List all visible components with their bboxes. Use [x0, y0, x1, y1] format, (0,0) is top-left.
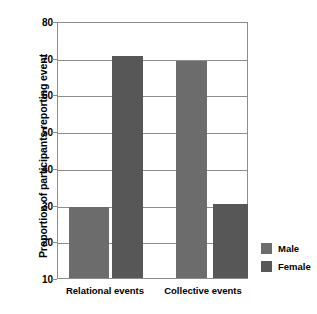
- x-tick-label-relational-events: Relational events: [66, 285, 144, 296]
- legend-swatch-male-icon: [261, 243, 272, 254]
- gridline-40: [58, 170, 247, 171]
- legend-item-male[interactable]: Male: [261, 243, 311, 254]
- gridline-60: [58, 96, 247, 97]
- chart-legend: Male Female: [261, 243, 311, 279]
- legend-label-male: Male: [278, 243, 299, 254]
- bar-chart-figure: Proportion of participants reporting eve…: [0, 0, 317, 314]
- y-tick-label-70: 70: [25, 53, 53, 64]
- gridline-70: [58, 60, 247, 61]
- y-tick-label-50: 50: [25, 127, 53, 138]
- legend-item-female[interactable]: Female: [261, 261, 311, 272]
- bar-collective-female[interactable]: [213, 204, 248, 279]
- y-tick-label-40: 40: [25, 163, 53, 174]
- y-tick-label-30: 30: [25, 200, 53, 211]
- plot-area: [57, 22, 248, 279]
- bar-collective-male[interactable]: [176, 61, 207, 278]
- legend-label-female: Female: [278, 261, 311, 272]
- y-tick-label-20: 20: [25, 237, 53, 248]
- y-tick-label-60: 60: [25, 90, 53, 101]
- bar-relational-female[interactable]: [112, 56, 143, 278]
- x-tick-label-collective-events: Collective events: [164, 285, 242, 296]
- y-tick-mark-10: [52, 279, 57, 280]
- y-tick-label-80: 80: [25, 17, 53, 28]
- legend-swatch-female-icon: [261, 261, 272, 272]
- gridline-50: [58, 133, 247, 134]
- y-tick-label-10: 10: [25, 274, 53, 285]
- bar-relational-male[interactable]: [69, 207, 109, 278]
